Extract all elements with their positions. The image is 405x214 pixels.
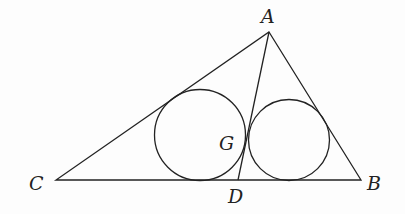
triangle-abc — [56, 32, 361, 180]
label-c: C — [29, 172, 44, 194]
label-g: G — [219, 132, 234, 154]
label-d: D — [227, 185, 243, 207]
segment-ad — [238, 32, 269, 180]
label-a: A — [259, 5, 275, 27]
geometry-diagram: A B C D G — [0, 0, 405, 214]
label-b: B — [366, 172, 381, 194]
right-incircle — [249, 100, 330, 181]
